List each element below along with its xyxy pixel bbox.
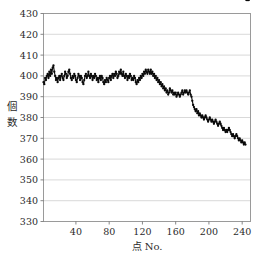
data-point [106,77,108,79]
data-point [155,79,157,81]
data-point [95,75,97,77]
data-point [188,91,190,93]
data-point [86,77,88,79]
y-tick-label: 400 [20,70,38,81]
data-point [170,91,172,93]
data-point [93,77,95,79]
data-point [187,93,189,95]
data-point [174,93,176,95]
y-tick-label: 430 [20,8,38,19]
y-tick-label: 350 [20,174,38,185]
data-point [107,81,109,83]
data-point [130,75,132,77]
data-point [60,75,62,77]
data-point [134,77,136,79]
data-point [44,77,46,79]
data-point [46,75,48,77]
data-point [145,69,147,71]
data-point [43,83,45,85]
data-point [165,91,167,93]
data-point [77,73,79,75]
y-tick-label: 420 [20,29,38,40]
data-point [128,77,130,79]
data-point [96,79,98,81]
data-point [125,73,127,75]
data-point [48,71,50,73]
data-point [163,85,165,87]
data-point [205,116,207,118]
data-point [132,79,134,81]
y-tick-label: 380 [20,112,38,123]
data-point [135,83,137,85]
data-point [159,83,161,85]
data-point [151,71,153,73]
data-point [110,79,112,81]
data-point [129,73,131,75]
data-point [150,69,152,71]
data-point [219,121,221,123]
data-point [148,71,150,73]
data-point [213,123,215,125]
data-point [73,73,75,75]
data-point [89,77,91,79]
x-axis-tick-labels: 4080120160200240 [70,226,251,237]
y-axis-tick-labels: 330340350360370380390400410420430 [20,8,38,227]
data-point [67,71,69,73]
data-point [56,81,58,83]
data-point [204,114,206,116]
data-point [171,89,173,91]
data-point [143,71,145,73]
data-point [115,71,117,73]
data-point [217,125,219,127]
data-point [117,75,119,77]
data-point [146,73,148,75]
x-tick-label: 160 [167,226,185,237]
data-point [52,64,54,66]
data-point [209,116,211,118]
data-point [90,73,92,75]
data-point [114,75,116,77]
data-point [65,73,67,75]
data-point [241,139,243,141]
data-point [140,77,142,79]
data-point [92,75,94,77]
data-point [81,77,83,79]
data-point [166,89,168,91]
data-point [64,71,66,73]
data-point [79,79,81,81]
data-point [66,75,68,77]
x-tick-label: 80 [103,226,115,237]
data-point [55,79,57,81]
data-point [131,77,133,79]
data-point [142,75,144,77]
data-point [164,89,166,91]
data-point [232,133,234,135]
y-tick-label: 390 [20,91,38,102]
data-point [120,69,122,71]
data-point [168,91,170,93]
data-point [144,73,146,75]
data-point [244,141,246,143]
data-point [175,91,177,93]
data-point [136,79,138,81]
data-point [105,81,107,83]
data-point [244,143,246,145]
data-point [226,131,228,133]
data-point [118,71,120,73]
data-point [165,87,167,89]
data-point [91,79,93,81]
data-point [135,81,137,83]
data-point [236,135,238,137]
data-point [88,75,90,77]
data-point [127,75,129,77]
data-point [220,125,222,127]
data-point [112,77,114,79]
data-point [133,75,135,77]
data-point [74,75,76,77]
data-point [75,79,77,81]
gridlines [44,34,251,200]
y-axis-title-char: 数 [7,116,18,128]
data-point [235,133,237,135]
data-point [116,73,118,75]
data-point [201,114,203,116]
